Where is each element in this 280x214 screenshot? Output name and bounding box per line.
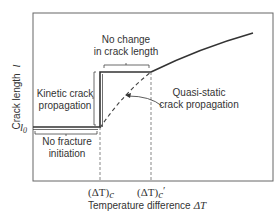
y-axis-label: Crack length l: [10, 65, 22, 130]
kinetic-label-2: propagation: [39, 100, 92, 111]
x-tick-text: (ΔT): [137, 186, 158, 199]
quasi-static-leader: [128, 96, 162, 106]
x-tick-sub: c: [109, 188, 114, 200]
svg-text:Crack length l: Crack length l: [10, 65, 22, 130]
no-fracture-label-1: No fracture: [42, 136, 92, 147]
quasi-static-curve: [151, 33, 253, 72]
kinetic-label-1: Kinetic crack: [37, 88, 95, 99]
dashed-extrapolation: [100, 72, 151, 128]
x-axis-symbol: ΔT: [193, 199, 207, 211]
crack-length-diagram: No change in crack length Kinetic crack …: [0, 0, 280, 214]
y-tick-subscript: 0: [23, 126, 27, 135]
x-axis-label: Temperature differenceΔT: [88, 199, 207, 211]
y-axis-symbol: l: [10, 65, 22, 68]
x-tick-critical-dt: (ΔT)c: [88, 186, 114, 200]
no-change-label-1: No change: [102, 34, 151, 45]
no-change-bracket: [104, 63, 149, 68]
x-tick-text: (ΔT): [88, 186, 109, 199]
quasi-static-label-1: Quasi-static: [173, 87, 226, 98]
y-tick-l0: l0: [20, 121, 27, 135]
quasi-static-label-2: crack propagation: [159, 99, 239, 110]
no-change-label-2: in crack length: [94, 46, 158, 57]
x-axis-label-text: Temperature difference: [88, 200, 191, 211]
x-tick-prime: ′: [163, 184, 165, 196]
no-fracture-label-2: initiation: [49, 148, 86, 159]
x-tick-critical-dt-prime: (ΔT)c′: [137, 184, 165, 200]
arrow-head-icon: [125, 93, 131, 98]
